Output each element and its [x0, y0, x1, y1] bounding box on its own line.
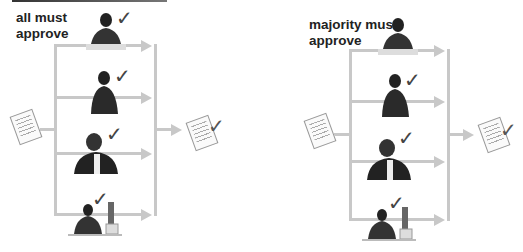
check-icon: ✓ [398, 128, 415, 148]
arrowhead [434, 96, 445, 108]
panel-majority-must-approve: majority must approve ✓ ✓ ✓ ✓ [0, 0, 523, 252]
document-check-icon: ✓ [500, 120, 517, 140]
arrowhead [434, 214, 445, 226]
input-document-icon [304, 113, 337, 149]
split-bus [349, 49, 352, 221]
arrowhead [434, 156, 445, 168]
approver-person-icon [374, 15, 418, 59]
check-icon: ✓ [388, 193, 405, 213]
check-icon: ✓ [404, 70, 421, 90]
input-connector [334, 133, 350, 136]
output-arrow [450, 133, 464, 136]
arrowhead [434, 45, 445, 57]
arrowhead [463, 129, 474, 141]
